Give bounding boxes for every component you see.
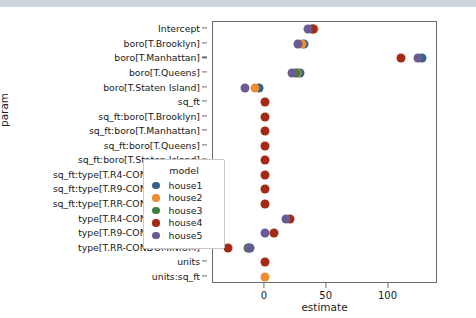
legend-label: house1 [169, 180, 203, 191]
legend-item-house3[interactable]: house3 [150, 204, 218, 217]
data-point [260, 272, 269, 281]
data-point [304, 25, 313, 34]
y-tick-mark [202, 130, 207, 131]
x-tick-mark [387, 283, 388, 288]
y-tick-mark [202, 261, 207, 262]
legend-title: model [150, 165, 218, 176]
y-tick-label: sq_ft:boro[T.Manhattan] [89, 125, 200, 136]
legend-item-house1[interactable]: house1 [150, 179, 218, 192]
y-tick-mark [202, 57, 207, 58]
data-point [260, 185, 269, 194]
data-point [260, 170, 269, 179]
y-tick-label: sq_ft:boro[T.Queens] [104, 139, 200, 150]
legend-swatch-icon [152, 194, 160, 202]
legend-label: house3 [169, 205, 203, 216]
data-point [414, 54, 423, 63]
legend-label: house2 [169, 192, 203, 203]
legend-item-house4[interactable]: house4 [150, 217, 218, 230]
y-tick-mark [202, 28, 207, 29]
legend-item-house2[interactable]: house2 [150, 192, 218, 205]
y-tick-mark [202, 115, 207, 116]
legend-swatch-icon [152, 219, 160, 227]
y-tick-label: sq_ft [178, 96, 200, 107]
y-tick-label: boro[T.Queens] [129, 66, 200, 77]
y-tick-mark [202, 71, 207, 72]
y-tick-label: boro[T.Manhattan] [114, 52, 200, 63]
legend-swatch-icon [152, 232, 160, 240]
data-point [260, 141, 269, 150]
data-point [294, 39, 303, 48]
data-point [260, 199, 269, 208]
y-tick-label: boro[T.Staten Island] [103, 81, 200, 92]
x-axis-label: estimate [212, 301, 437, 313]
x-tick-label: 50 [319, 290, 332, 301]
y-tick-mark [202, 42, 207, 43]
x-tick-label: 0 [261, 290, 267, 301]
legend-label: house4 [169, 217, 203, 228]
data-point [244, 243, 253, 252]
legend-entries: house1house2house3house4house5 [150, 179, 218, 242]
data-point [251, 83, 260, 92]
data-point [260, 258, 269, 267]
x-tick-mark [325, 283, 326, 288]
y-tick-label: boro[T.Brooklyn] [124, 37, 200, 48]
y-tick-label: units [177, 256, 200, 267]
data-point [288, 68, 297, 77]
y-tick-mark [202, 275, 207, 276]
data-point [260, 229, 269, 238]
y-tick-label: sq_ft:boro[T.Brooklyn] [98, 110, 200, 121]
x-tick-mark [263, 283, 264, 288]
x-tick-label: 100 [378, 290, 397, 301]
data-point [260, 112, 269, 121]
legend[interactable]: model house1house2house3house4house5 [143, 159, 225, 249]
data-point [260, 156, 269, 165]
legend-label: house5 [169, 230, 203, 241]
data-point [270, 229, 279, 238]
y-tick-label: Intercept [158, 23, 200, 34]
legend-swatch-icon [152, 182, 160, 190]
y-tick-mark [202, 144, 207, 145]
data-point [260, 127, 269, 136]
data-point [396, 54, 405, 63]
chart-figure: param Interceptboro[T.Brooklyn]boro[T.Ma… [0, 7, 476, 318]
data-point [260, 98, 269, 107]
data-point [241, 83, 250, 92]
y-tick-label: units:sq_ft [152, 270, 200, 281]
data-point [281, 214, 290, 223]
legend-item-house5[interactable]: house5 [150, 229, 218, 242]
plot-area [212, 21, 437, 283]
window-top-strip [0, 0, 476, 7]
y-tick-mark [202, 100, 207, 101]
legend-swatch-icon [152, 207, 160, 215]
y-tick-mark [202, 86, 207, 87]
